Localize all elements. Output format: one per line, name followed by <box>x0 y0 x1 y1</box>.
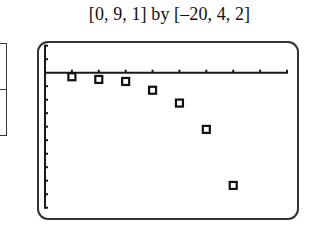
scatter-plot <box>0 0 315 227</box>
data-point-square-icon <box>149 87 156 94</box>
data-point-square-icon <box>122 78 129 85</box>
data-point-square-icon <box>95 76 102 83</box>
data-point-square-icon <box>68 73 75 80</box>
data-point-square-icon <box>230 182 237 189</box>
data-point-square-icon <box>176 100 183 107</box>
data-point-square-icon <box>203 126 210 133</box>
